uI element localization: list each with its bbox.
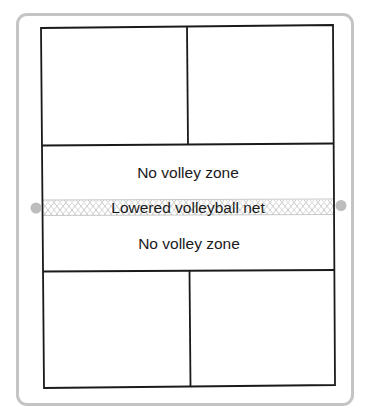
lower-center-line	[190, 271, 191, 387]
upper-no-volley-zone-label: No volley zone	[137, 165, 239, 181]
upper-center-line	[187, 27, 188, 145]
right-net-post-icon	[336, 200, 347, 211]
lower-no-volley-zone-label: No volley zone	[138, 236, 240, 252]
left-net-post-icon	[31, 203, 42, 214]
net-label: Lowered volleyball net	[111, 200, 264, 216]
